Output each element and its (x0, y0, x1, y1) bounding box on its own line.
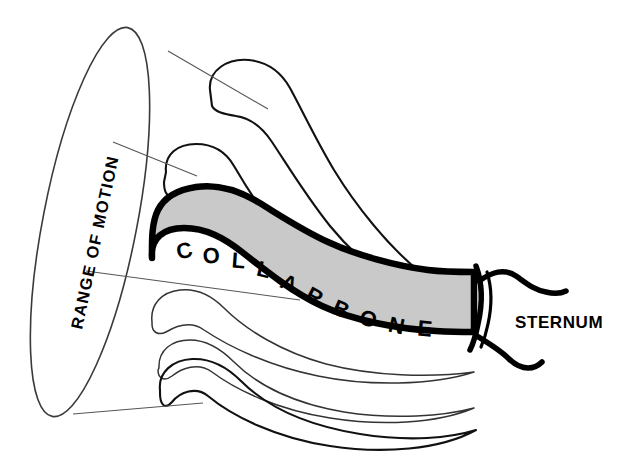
sternum-label: STERNUM (515, 313, 603, 332)
collarbone-range-of-motion-figure: RANGE OF MOTION C O L L A R B O N E STER… (0, 0, 628, 476)
collarbone-letter: E (416, 315, 433, 341)
range-of-motion-label-group: RANGE OF MOTION (67, 154, 121, 331)
clavicle-position-5-lowered (160, 359, 476, 450)
collarbone-shape-group (152, 186, 474, 332)
sternum-lower-arm (477, 336, 542, 368)
sternum-label-group: STERNUM (515, 313, 603, 332)
collarbone-letter: O (201, 242, 221, 269)
range-of-motion-label: RANGE OF MOTION (67, 154, 121, 331)
diagram-canvas: RANGE OF MOTION C O L L A R B O N E STER… (0, 0, 628, 476)
leader-to-upper-position (113, 142, 197, 176)
collarbone-letter: C (174, 237, 195, 265)
leader-to-bottom-position (73, 403, 203, 414)
collarbone-bone (152, 186, 474, 332)
collarbone-letter: L (231, 248, 246, 274)
